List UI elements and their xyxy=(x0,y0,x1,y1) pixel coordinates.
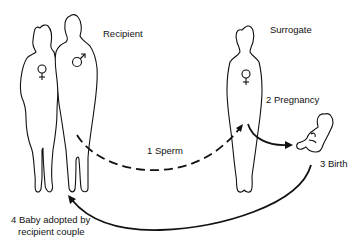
recipient-woman-silhouette xyxy=(20,25,58,192)
step2-pregnancy-label: 2 Pregnancy xyxy=(266,94,319,105)
recipient-label: Recipient xyxy=(103,28,143,39)
surrogate-label: Surrogate xyxy=(270,24,312,35)
baby-figure xyxy=(297,114,333,152)
step4-label-line2: recipient couple xyxy=(18,226,85,237)
step3-birth-label: 3 Birth xyxy=(320,158,347,169)
recipient-man-silhouette xyxy=(55,15,97,192)
adoption-arrow xyxy=(72,165,311,230)
surrogate-silhouette xyxy=(227,26,262,192)
step1-sperm-label: 1 Sperm xyxy=(147,145,183,156)
pregnancy-arrowhead xyxy=(285,141,293,149)
step4-label-line1: 4 Baby adopted by xyxy=(11,214,90,225)
